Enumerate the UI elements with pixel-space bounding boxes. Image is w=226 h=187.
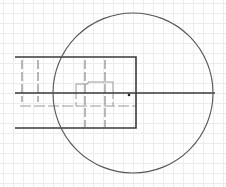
inner-step-lower-hidden[interactable] (76, 93, 113, 106)
point-marker[interactable] (128, 94, 131, 97)
drawing-viewport[interactable] (0, 0, 226, 187)
drawing-canvas[interactable] (0, 0, 226, 187)
geometry (15, 13, 215, 173)
